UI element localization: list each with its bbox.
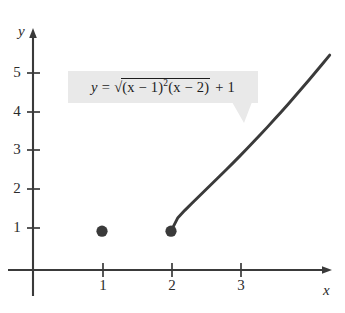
- equation-equals: =: [102, 79, 110, 95]
- y-tick-label-2: 2: [8, 180, 26, 197]
- y-tick-label-4: 4: [8, 103, 26, 120]
- x-tick-label-1: 1: [94, 277, 112, 294]
- y-axis: [27, 28, 40, 296]
- isolated-point-marker: [96, 226, 107, 237]
- y-tick-label-1: 1: [8, 219, 26, 236]
- plot-canvas: [0, 0, 345, 313]
- y-tick-label-5: 5: [8, 64, 26, 81]
- equation-tail: + 1: [215, 79, 235, 95]
- equation-callout-box: y=√(x − 1)2(x − 2)+ 1: [68, 71, 258, 103]
- equation-text: y=√(x − 1)2(x − 2)+ 1: [91, 79, 235, 96]
- x-tick-label-3: 3: [232, 277, 250, 294]
- y-tick-label-3: 3: [8, 141, 26, 158]
- equation-lhs: y: [91, 79, 98, 95]
- radicand-part2: (x − 2): [168, 79, 209, 95]
- x-tick-label-2: 2: [163, 277, 181, 294]
- x-axis-label: x: [323, 282, 330, 299]
- curve-endpoint-marker: [165, 226, 176, 237]
- y-axis-label: y: [18, 23, 25, 40]
- callout-tail: [232, 102, 252, 123]
- radicand-part1: (x − 1): [122, 79, 163, 95]
- x-axis-arrowhead: [322, 266, 332, 274]
- x-axis: [8, 263, 332, 277]
- graph-figure: y x 1 2 3 1 2 3 4 5 y=√(x − 1)2(x − 2)+ …: [0, 0, 345, 313]
- radicand-group: (x − 1)2(x − 2): [121, 78, 210, 95]
- y-axis-arrowhead: [29, 28, 37, 38]
